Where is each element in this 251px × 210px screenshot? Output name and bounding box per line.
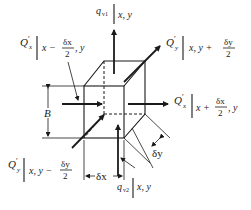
- svg-text:′: ′: [174, 35, 176, 44]
- svg-text:2: 2: [226, 49, 231, 59]
- svg-text:x: x: [182, 102, 187, 110]
- svg-text:δy: δy: [61, 159, 70, 169]
- qy-bottom-label: Q ′ y x, y − δy 2: [8, 157, 72, 182]
- dy-label: δy: [152, 147, 163, 159]
- svg-text:x +: x +: [195, 102, 210, 113]
- qx-right-label: Q ′ x x + δx 2 , y: [174, 93, 238, 118]
- svg-text:y: y: [174, 44, 179, 52]
- qy-bottom-arrow: [72, 115, 104, 148]
- svg-text:q: q: [117, 181, 122, 192]
- svg-text:2: 2: [63, 171, 68, 181]
- svg-text:x, y −: x, y −: [28, 165, 52, 176]
- dy-dimension: δy: [124, 114, 170, 168]
- svg-text:y: y: [16, 166, 21, 174]
- svg-text:′: ′: [182, 93, 184, 102]
- svg-text:2: 2: [218, 108, 223, 118]
- svg-text:2: 2: [65, 49, 70, 59]
- svg-text:x: x: [28, 43, 33, 51]
- qx-left-leader: [68, 62, 78, 100]
- svg-text:δx: δx: [216, 96, 225, 106]
- svg-text:x −: x −: [41, 42, 56, 53]
- thickness-dimension: B: [42, 86, 84, 138]
- qy-top-label: Q ′ y x, y + δy 2: [166, 35, 235, 60]
- qx-left-label: Q ′ x x − δx 2 , y: [20, 35, 85, 60]
- svg-text:x, y +: x, y +: [188, 42, 212, 53]
- q-v1-label: q v1 x, y: [96, 4, 132, 24]
- svg-text:x, y: x, y: [117, 9, 132, 20]
- q-v2-label: q v2 x, y: [117, 178, 151, 198]
- svg-text:x, y: x, y: [136, 181, 151, 192]
- control-volume-diagram: B δx δy q v1 x, y q v2 x, y Q ′ x x − δx: [0, 0, 251, 210]
- svg-text:Q: Q: [8, 158, 16, 170]
- svg-text:Q: Q: [20, 36, 28, 48]
- dx-label: δx: [96, 170, 107, 182]
- qy-top-arrow: [124, 46, 160, 82]
- svg-text:v1: v1: [102, 11, 108, 17]
- svg-text:v2: v2: [123, 187, 129, 193]
- svg-text:q: q: [96, 5, 101, 16]
- q-v2-leader: [121, 158, 135, 168]
- svg-text:δx: δx: [63, 37, 72, 47]
- svg-text:, y: , y: [228, 102, 238, 113]
- svg-text:, y: , y: [75, 42, 85, 53]
- svg-text:Q: Q: [174, 94, 182, 106]
- thickness-label: B: [44, 107, 51, 119]
- svg-text:Q: Q: [166, 36, 174, 48]
- svg-text:δy: δy: [224, 37, 233, 47]
- svg-text:′: ′: [16, 157, 18, 166]
